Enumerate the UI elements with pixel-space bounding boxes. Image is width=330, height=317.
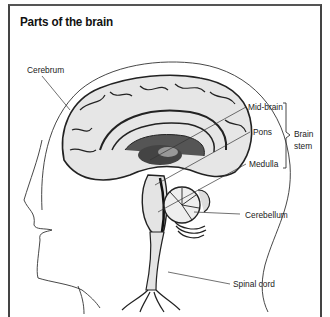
label-cerebrum: Cerebrum	[27, 64, 64, 75]
leader-cerebellum	[194, 212, 240, 214]
label-cerebellum: Cerebellum	[245, 209, 288, 220]
label-spinal-cord: Spinal cord	[233, 278, 275, 289]
label-brain-stem-2: stem	[294, 140, 312, 151]
label-medulla: Medulla	[249, 158, 278, 169]
brain-illustration	[0, 0, 330, 317]
label-midbrain: Mid-brain	[248, 101, 283, 112]
leader-cerebrum	[42, 76, 70, 110]
label-pons: Pons	[253, 126, 272, 137]
spinal-cord-shape	[146, 232, 164, 290]
label-brain-stem-1: Brain	[294, 128, 314, 139]
leader-spinal-cord	[168, 272, 230, 284]
